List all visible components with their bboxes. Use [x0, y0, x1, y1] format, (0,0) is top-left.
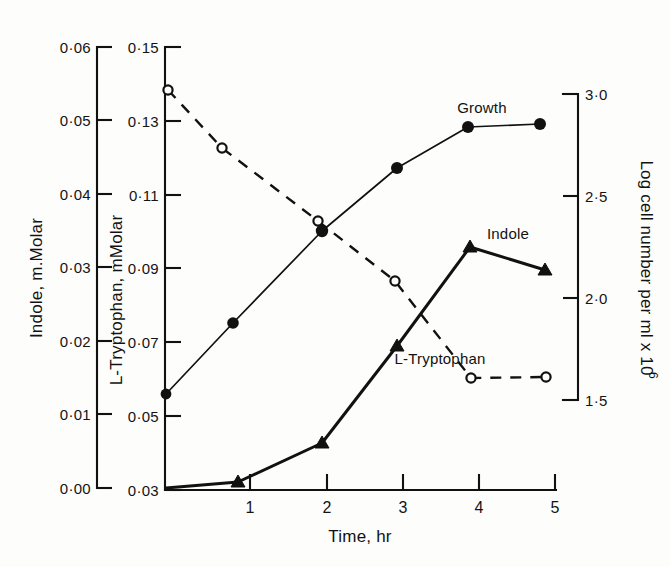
growth-ticklabel-3p0: 3·0 [585, 86, 608, 103]
xticklabel-1: 1 [246, 499, 255, 516]
indole-ticklabel-0p06: 0·06 [60, 39, 91, 56]
l-tryptophan-point [541, 372, 550, 381]
growth-ticklabel-2p5: 2·5 [585, 188, 608, 205]
tryptophan-ticklabel-0p05: 0·05 [128, 408, 159, 425]
l-tryptophan-point [390, 276, 399, 285]
growth-axis-title-superscript: 6 [646, 372, 660, 379]
xticklabel-3: 3 [399, 499, 408, 516]
tryptophan-ticklabel-0p13: 0·13 [128, 113, 159, 130]
x-axis-ticks [250, 474, 555, 490]
indole-ticklabel-0p05: 0·05 [60, 112, 91, 129]
l-tryptophan-point [466, 373, 475, 382]
series-label-growth: Growth [457, 99, 507, 116]
indole-ticklabel-0p03: 0·03 [60, 259, 91, 276]
growth-point [227, 317, 239, 329]
indole-ticklabel-0p02: 0·02 [60, 333, 91, 350]
tryptophan-ticklabel-0p07: 0·07 [128, 334, 159, 351]
indole-point [463, 240, 477, 252]
series-label-indole: Indole [487, 225, 529, 242]
growth-point [161, 389, 172, 400]
tryptophan-ticklabel-0p11: 0·11 [129, 187, 159, 204]
growth-ticklabel-2p0: 2·0 [585, 290, 608, 307]
growth-axis-spine [563, 94, 578, 400]
growth-axis-title: Log cell number per ml x 10 [637, 160, 656, 375]
xticklabel-2: 2 [323, 499, 332, 516]
tryptophan-ticklabel-0p03: 0·03 [128, 482, 159, 499]
growth-point [391, 162, 403, 174]
growth-axis: 3·0 2·5 2·0 1·5 Log cell number per ml x… [563, 86, 660, 409]
tryptophan-ticklabel-0p09: 0·09 [128, 260, 159, 277]
growth-point [462, 121, 474, 133]
x-axis: 1 2 3 4 5 Time, hr [165, 474, 560, 546]
indole-line [166, 247, 545, 488]
xticklabel-4: 4 [475, 499, 484, 516]
tryptophan-ticklabel-0p15: 0·15 [128, 39, 159, 56]
series-indole: Indole [166, 225, 552, 488]
xticklabel-5: 5 [551, 499, 560, 516]
growth-point [534, 118, 546, 130]
tryptophan-axis-ticks [165, 47, 181, 490]
l-tryptophan-point [217, 143, 226, 152]
growth-axis-ticks [563, 94, 578, 400]
indole-axis-title: Indole, m.Molar [27, 218, 46, 338]
l-tryptophan-point [163, 85, 172, 94]
growth-point [316, 225, 328, 237]
tryptophan-axis-title: L-Tryptophan, mMolar [107, 215, 126, 386]
chart-svg: 0·06 0·05 0·04 0·03 0·02 0·01 0·00 Indol… [0, 0, 670, 567]
growth-axis-title-group: Log cell number per ml x 10 6 [637, 160, 660, 379]
growth-ticklabel-1p5: 1·5 [585, 392, 608, 409]
indole-axis: 0·06 0·05 0·04 0·03 0·02 0·01 0·00 Indol… [27, 39, 112, 497]
series-label-l-tryptophan: L-Tryptophan [394, 350, 485, 367]
indole-ticklabel-0p01: 0·01 [60, 406, 91, 423]
indole-ticklabel-0p00: 0·00 [60, 480, 91, 497]
x-axis-title: Time, hr [328, 527, 391, 546]
chart-figure: 0·06 0·05 0·04 0·03 0·02 0·01 0·00 Indol… [0, 0, 670, 567]
tryptophan-axis: 0·15 0·13 0·11 0·09 0·07 0·05 0·03 L-Try… [107, 39, 181, 499]
indole-ticklabel-0p04: 0·04 [60, 186, 91, 203]
l-tryptophan-point [313, 216, 322, 225]
